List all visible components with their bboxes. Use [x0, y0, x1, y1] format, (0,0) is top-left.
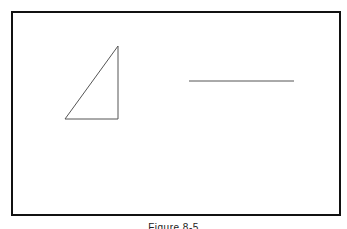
right-triangle [65, 46, 118, 119]
figure-canvas [0, 0, 347, 229]
figure-caption: Figure 8-5 [0, 222, 347, 229]
